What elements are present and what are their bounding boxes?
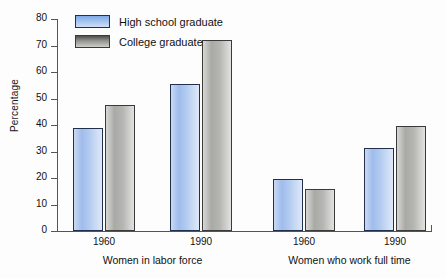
y-tick-label: 50 <box>36 92 47 103</box>
x-axis-line <box>57 231 432 232</box>
y-tick-label: 30 <box>36 145 47 156</box>
y-tick-label: 80 <box>36 12 47 23</box>
y-tick-label: 40 <box>36 118 47 129</box>
bar <box>202 40 232 231</box>
y-tick-label: 20 <box>36 171 47 182</box>
bar <box>364 148 394 231</box>
x-axis-year-label: 1990 <box>171 236 231 247</box>
x-axis-year-label: 1990 <box>365 236 425 247</box>
y-tick-40: 40 <box>51 125 57 126</box>
legend-swatch-icon <box>75 15 110 28</box>
y-tick-70: 70 <box>51 46 57 47</box>
y-tick-30: 30 <box>51 152 57 153</box>
bar-chart: Percentage 01020304050607080 19601990196… <box>0 0 446 279</box>
y-axis-title: Percentage <box>9 61 20 151</box>
y-tick-label: 60 <box>36 65 47 76</box>
y-tick-60: 60 <box>51 72 57 73</box>
x-axis-end-cap <box>431 225 432 231</box>
y-tick-0: 0 <box>51 231 57 232</box>
legend-swatch-icon <box>75 35 110 48</box>
y-axis-line <box>57 19 58 231</box>
x-axis-group-label: Women who work full time <box>240 254 446 266</box>
y-tick-label: 0 <box>41 224 47 235</box>
y-tick-80: 80 <box>51 19 57 20</box>
y-tick-label: 10 <box>36 198 47 209</box>
x-axis-group-label: Women in labor force <box>43 254 263 266</box>
legend-item: College graduate <box>75 33 223 50</box>
x-axis-year-label: 1960 <box>274 236 334 247</box>
bar <box>73 128 103 231</box>
legend-item: High school graduate <box>75 13 223 30</box>
chart-legend: High school graduateCollege graduate <box>75 13 223 53</box>
y-tick-50: 50 <box>51 99 57 100</box>
y-tick-20: 20 <box>51 178 57 179</box>
bar <box>170 84 200 231</box>
legend-label: College graduate <box>119 36 203 48</box>
x-axis-year-label: 1960 <box>74 236 134 247</box>
legend-label: High school graduate <box>119 16 223 28</box>
y-tick-label: 70 <box>36 39 47 50</box>
bar <box>396 126 426 231</box>
bar <box>273 179 303 231</box>
bar <box>305 189 335 231</box>
y-tick-10: 10 <box>51 205 57 206</box>
bar <box>105 105 135 231</box>
